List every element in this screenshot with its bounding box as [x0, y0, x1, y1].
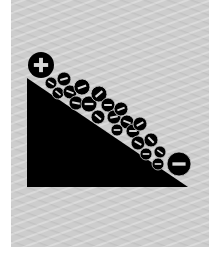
minus-circle-icon	[152, 158, 164, 170]
minus-circle-icon	[111, 124, 123, 136]
plus-vertical-bar	[39, 58, 43, 72]
black-slope-triangle	[27, 78, 188, 187]
plus-circle-icon	[28, 52, 54, 78]
minus-circle-icon	[140, 148, 152, 160]
illustration-canvas	[0, 0, 215, 261]
minus-symbol	[167, 152, 191, 176]
charge-slope-illustration	[0, 0, 215, 261]
large-minus-circle-icon	[167, 152, 191, 176]
